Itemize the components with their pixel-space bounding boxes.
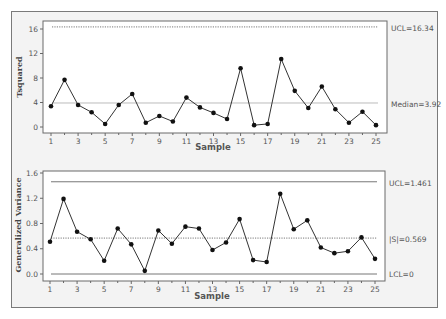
- data-point: [157, 114, 162, 119]
- data-point: [225, 117, 230, 122]
- x-tick-label: 7: [130, 137, 135, 146]
- data-point: [346, 249, 351, 254]
- data-point: [102, 258, 107, 263]
- x-tick-label: 23: [343, 285, 353, 294]
- data-point: [115, 226, 120, 231]
- data-point: [238, 66, 243, 71]
- x-tick-label: 19: [289, 285, 299, 294]
- data-point: [116, 103, 121, 108]
- y-tick-label: 4: [33, 98, 38, 107]
- x-tick-label: 7: [129, 285, 134, 294]
- bottom-lcl-label: LCL=0: [389, 270, 414, 279]
- bottom-center-label: |S|=0.569: [389, 235, 427, 244]
- data-point: [130, 92, 135, 97]
- data-point: [198, 105, 203, 110]
- y-tick-label: 0.0: [26, 270, 38, 279]
- data-point: [129, 242, 134, 247]
- data-point: [49, 104, 54, 109]
- x-tick-label: 9: [156, 285, 161, 294]
- x-tick-label: 5: [103, 137, 108, 146]
- y-tick-label: 1.6: [26, 169, 38, 178]
- x-tick-label: 11: [182, 137, 192, 146]
- data-point: [184, 95, 189, 100]
- data-point: [319, 245, 324, 250]
- top-plot-area: [43, 21, 387, 133]
- data-point: [48, 240, 53, 245]
- bottom-plot-area: [43, 171, 385, 281]
- x-tick-label: 19: [290, 137, 300, 146]
- y-tick-label: 0: [33, 123, 38, 132]
- x-tick-label: 23: [344, 137, 354, 146]
- x-tick-label: 11: [181, 285, 191, 294]
- x-tick-label: 17: [263, 137, 273, 146]
- bottom-x-axis-label: Sample: [194, 291, 230, 301]
- data-point: [61, 197, 66, 202]
- data-point: [237, 217, 242, 222]
- top-ucl-label: UCL=16.34: [391, 24, 434, 33]
- data-point: [333, 107, 338, 112]
- data-point: [347, 120, 352, 125]
- x-tick-label: 3: [75, 285, 80, 294]
- x-tick-label: 3: [76, 137, 81, 146]
- data-point: [360, 109, 365, 114]
- tsquared-chart: 0481216 135791113151719212325 Tsquared S…: [14, 21, 441, 152]
- data-point: [374, 123, 379, 128]
- x-tick-label: 15: [236, 137, 246, 146]
- control-charts: 0481216 135791113151719212325 Tsquared S…: [0, 0, 446, 319]
- data-point: [265, 122, 270, 127]
- y-tick-label: 0.4: [26, 244, 38, 253]
- data-point: [210, 248, 215, 253]
- data-point: [306, 106, 311, 111]
- data-point: [143, 120, 148, 125]
- data-point: [279, 57, 284, 62]
- x-tick-label: 21: [317, 137, 327, 146]
- bottom-y-axis: 0.00.40.81.21.6: [26, 169, 43, 279]
- generalized-variance-chart: 0.00.40.81.21.6 135791113151719212325 Ge…: [13, 169, 432, 302]
- data-point: [332, 251, 337, 256]
- data-point: [305, 218, 310, 223]
- x-tick-label: 5: [102, 285, 107, 294]
- data-point: [373, 257, 378, 262]
- x-tick-label: 15: [235, 285, 245, 294]
- data-point: [76, 103, 81, 108]
- y-tick-label: 16: [28, 25, 38, 34]
- x-tick-label: 25: [371, 137, 381, 146]
- data-point: [62, 78, 67, 83]
- data-point: [89, 110, 94, 115]
- data-point: [359, 235, 364, 240]
- x-tick-label: 9: [157, 137, 162, 146]
- x-tick-label: 25: [370, 285, 380, 294]
- data-point: [291, 227, 296, 232]
- data-point: [251, 258, 256, 263]
- data-point: [103, 122, 108, 127]
- y-tick-label: 1.2: [26, 194, 38, 203]
- data-point: [292, 89, 297, 94]
- x-tick-label: 21: [316, 285, 326, 294]
- x-tick-label: 1: [48, 285, 53, 294]
- data-point: [211, 111, 216, 116]
- top-median-label: Median=3.92: [391, 100, 441, 109]
- data-point: [171, 119, 176, 124]
- x-tick-label: 1: [49, 137, 54, 146]
- data-point: [264, 260, 269, 265]
- data-point: [224, 240, 229, 245]
- top-y-axis: 0481216: [28, 25, 43, 132]
- bottom-y-axis-label: Generalized Variance: [13, 177, 23, 272]
- x-tick-label: 17: [262, 285, 272, 294]
- data-point: [88, 237, 93, 242]
- top-x-axis-label: Sample: [195, 142, 231, 152]
- data-point: [197, 226, 202, 231]
- data-point: [75, 229, 80, 234]
- y-tick-label: 12: [28, 49, 38, 58]
- bottom-ucl-label: UCL=1.461: [389, 179, 432, 188]
- data-point: [170, 241, 175, 246]
- y-tick-label: 8: [33, 74, 38, 83]
- data-point: [252, 123, 257, 128]
- data-point: [320, 84, 325, 89]
- data-point: [156, 228, 161, 233]
- y-tick-label: 0.8: [26, 219, 38, 228]
- data-point: [278, 192, 283, 197]
- data-point: [183, 224, 188, 229]
- top-y-axis-label: Tsquared: [14, 56, 24, 98]
- data-point: [142, 269, 147, 274]
